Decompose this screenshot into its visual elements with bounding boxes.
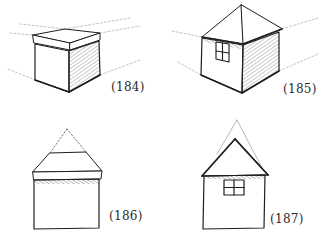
figure-185-house bbox=[172, 5, 318, 93]
window-icon bbox=[224, 180, 244, 195]
figure-187-house bbox=[202, 120, 268, 229]
roof-apex-guide bbox=[50, 129, 86, 153]
window-icon bbox=[216, 42, 229, 62]
drawing-canvas bbox=[0, 0, 323, 241]
figure-label-185: (185) bbox=[283, 82, 317, 96]
figure-label-186: (186) bbox=[109, 209, 143, 223]
figure-label-184: (184) bbox=[111, 80, 145, 94]
figure-label-187: (187) bbox=[270, 212, 304, 226]
figure-186-house bbox=[33, 129, 102, 229]
